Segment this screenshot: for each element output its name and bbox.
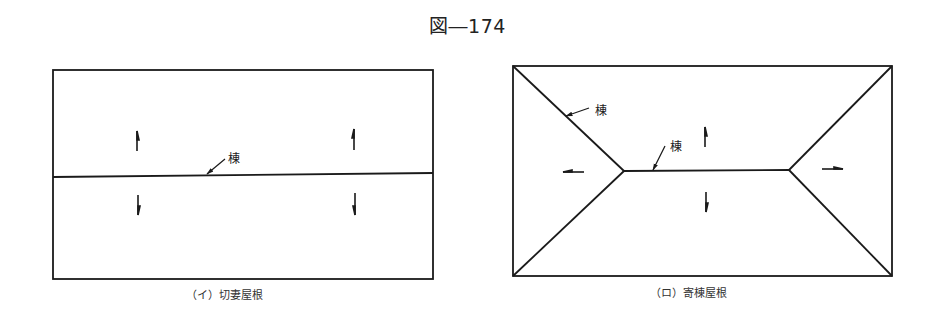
slope-arrows <box>137 129 355 215</box>
gable-roof-diagram <box>53 70 433 279</box>
hip-ridge-leader-arrow <box>566 108 589 116</box>
gable-caption: （イ）切妻屋根 <box>186 286 263 302</box>
roof-diagrams <box>0 0 935 328</box>
ridge-leader-arrow <box>207 159 225 174</box>
main-ridge-label: 棟 <box>670 137 682 154</box>
hip-caption: （ロ）寄棟屋根 <box>650 284 727 300</box>
hip-ridge-top-right <box>789 66 892 170</box>
main-ridge-leader-arrow <box>653 146 665 170</box>
hip-ridge-bottom-right <box>789 170 892 276</box>
gable-ridge-label: 棟 <box>228 149 240 166</box>
hip-ridge-bottom-left <box>513 171 624 276</box>
slope-arrows <box>563 127 843 212</box>
hip-ridge-label: 棟 <box>595 101 607 118</box>
gable-ridge-line <box>53 173 433 177</box>
hip-ridge-top-left <box>513 66 624 171</box>
hip-roof-diagram <box>513 66 892 276</box>
hip-main-ridge <box>624 170 789 171</box>
